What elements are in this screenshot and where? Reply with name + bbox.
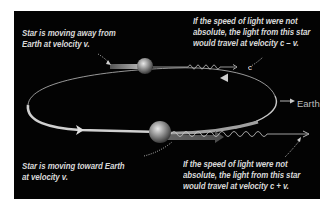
label-line: at velocity v. <box>22 172 125 183</box>
pointer-arrow-bottom-right-icon <box>297 137 301 142</box>
light-wave-top <box>153 65 237 70</box>
label-star-moving-away: Star is moving away from Earth at veloci… <box>22 28 116 50</box>
label-line: If the speed of light were not <box>193 16 310 27</box>
label-line: Star is moving toward Earth <box>22 161 125 172</box>
label-star-moving-toward: Star is moving toward Earth at velocity … <box>22 161 125 183</box>
label-line: absolute, the light from this star <box>183 170 300 181</box>
orbit-arrow-top-icon <box>220 74 228 83</box>
label-line: Earth at velocity v. <box>22 39 116 50</box>
earth-arrow-icon <box>290 99 295 104</box>
label-line: absolute, the light from this star <box>193 27 310 38</box>
earth-label: Earth <box>297 98 320 109</box>
star-top <box>137 58 153 74</box>
label-line: would travel at velocity c – v. <box>193 38 310 49</box>
star-bottom <box>149 121 171 143</box>
label-light-c-plus-v: If the speed of light were not absolute,… <box>183 159 300 192</box>
pointer-arrow-top-left-icon <box>106 60 111 65</box>
orbit-ellipse <box>28 68 277 133</box>
label-line: Star is moving away from <box>22 28 116 39</box>
label-line: If the speed of light were not <box>183 159 300 170</box>
dotted-pointers <box>98 54 300 157</box>
label-line: would travel at velocity c + v. <box>183 181 300 192</box>
label-light-c-minus-v: If the speed of light were not absolute,… <box>193 16 310 49</box>
